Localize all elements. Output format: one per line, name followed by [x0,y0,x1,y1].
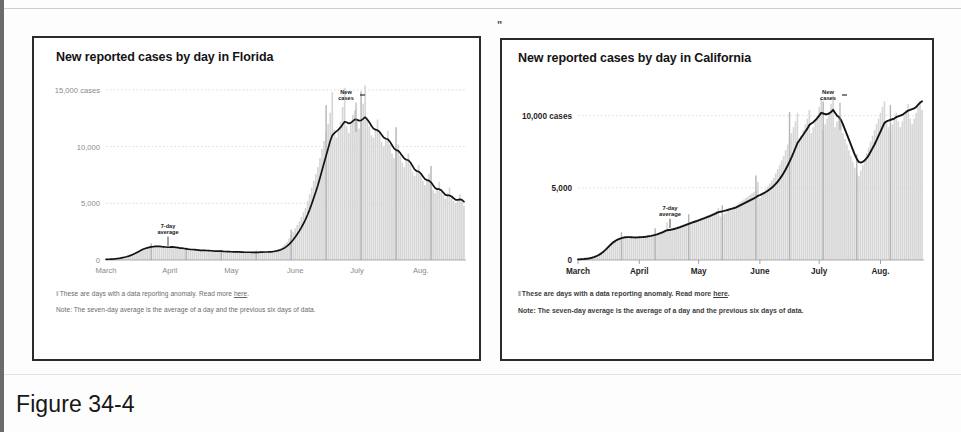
scanned-page: " New reported cases by day in Florida 0… [0,0,961,432]
svg-text:10,000: 10,000 [77,143,100,152]
anomaly-glyph-icon: II [56,290,58,297]
footnote-note-text: Note: The seven-day average is the avera… [56,306,316,313]
svg-text:cases: cases [338,95,354,101]
chart-svg-florida: 05,00010,00015,000 casesMarchAprilMayJun… [44,68,472,286]
svg-text:May: May [691,267,707,276]
footnote-anomaly-text: These are days with a data reporting ano… [60,290,234,297]
svg-text:April: April [630,267,649,276]
footnotes-california: IIThese are days with a data reporting a… [518,290,918,323]
chart-title-california: New reported cases by day in California [518,51,751,65]
footnote-note: Note: The seven-day average is the avera… [56,306,464,313]
svg-text:June: June [287,266,303,275]
svg-text:15,000 cases: 15,000 cases [55,86,100,95]
svg-text:cases: cases [820,95,836,101]
svg-text:March: March [95,266,116,275]
footnote-note-text: Note: The seven-day average is the avera… [518,307,804,314]
svg-text:average: average [659,211,682,217]
svg-text:March: March [566,267,590,276]
footnote-anomaly: IIThese are days with a data reporting a… [56,290,464,297]
svg-text:Aug.: Aug. [871,267,889,276]
anomaly-glyph-icon: II [518,290,520,298]
svg-text:7-day: 7-day [161,223,177,229]
svg-text:New: New [340,89,352,95]
page-left-edge [0,0,4,432]
svg-text:average: average [157,229,178,235]
footnote-anomaly-tail: . [247,290,249,297]
footnote-anomaly: IIThese are days with a data reporting a… [518,290,918,298]
chart-title-florida: New reported cases by day in Florida [56,50,273,64]
svg-text:0: 0 [567,256,572,265]
svg-text:June: June [750,267,770,276]
quote-mark-artifact: " [497,20,501,31]
svg-text:5,000: 5,000 [552,184,573,193]
footnote-anomaly-tail: . [728,290,730,297]
svg-text:July: July [350,266,364,275]
svg-text:5,000: 5,000 [81,199,100,208]
svg-text:May: May [224,266,239,275]
svg-text:April: April [162,266,178,275]
footnote-note: Note: The seven-day average is the avera… [518,307,918,315]
svg-text:7-day: 7-day [662,205,678,211]
svg-text:Aug.: Aug. [413,266,429,275]
figure-caption: Figure 34-4 [16,391,135,418]
chart-panel-florida: New reported cases by day in Florida 05,… [32,36,481,361]
footnote-anomaly-text: These are days with a data reporting ano… [522,290,713,297]
footnotes-florida: IIThese are days with a data reporting a… [56,290,464,323]
footnote-here-link[interactable]: here [234,290,247,297]
chart-svg-california: 05,00010,000 casesMarchAprilMayJuneJulyA… [510,68,928,286]
footnote-here-link[interactable]: here [713,290,728,297]
scan-top-rule [4,8,961,9]
svg-text:10,000 cases: 10,000 cases [522,112,573,121]
chart-panel-california: New reported cases by day in California … [500,38,934,361]
svg-text:July: July [811,267,828,276]
svg-text:0: 0 [96,256,100,265]
scan-bottom-rule [4,374,961,375]
svg-text:New: New [822,89,834,95]
